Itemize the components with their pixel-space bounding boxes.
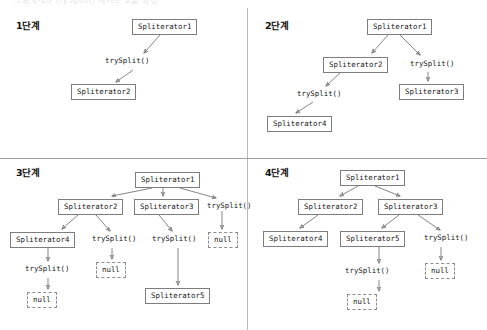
quadrant-title-step-3: 3단계 (16, 165, 40, 179)
node-null-bottom-step4: null (347, 294, 377, 310)
node-trysplit-s5-step4: trySplit() (345, 267, 390, 274)
node-spliterator2-step3: Spliterator2 (58, 199, 123, 215)
node-spliterator1-step4: Spliterator1 (340, 170, 405, 186)
node-spliterator2-step2: Spliterator2 (323, 57, 388, 73)
quadrant-title-step-4: 4단계 (265, 165, 289, 179)
node-spliterator5-step3: Spliterator5 (145, 288, 210, 304)
node-null-right-step3: null (208, 232, 238, 248)
quadrant-title-step-1: 1단계 (16, 18, 40, 32)
node-null-left-step3: null (27, 292, 57, 308)
node-trysplit-s2-right-step3: trySplit() (92, 235, 137, 242)
node-spliterator2-step4: Spliterator2 (298, 199, 363, 215)
node-spliterator1-step1: Spliterator1 (132, 19, 197, 35)
node-trysplit-right-step2: trySplit() (410, 60, 455, 67)
quadrant-divider-vertical (247, 8, 248, 330)
node-spliterator3-step4: Spliterator3 (378, 199, 443, 215)
node-null-right-step4: null (425, 263, 455, 279)
node-spliterator5-step4: Spliterator5 (340, 231, 405, 247)
diagram-edges (0, 0, 487, 330)
node-spliterator1-step3: Spliterator1 (135, 172, 200, 188)
node-trysplit-left-step2: trySplit() (297, 90, 342, 97)
node-trysplit-step1: trySplit() (105, 57, 150, 64)
clipped-figure-caption: 그림 8-20 trySplit() 메서드 호출 과정 (14, 0, 174, 6)
node-spliterator3-step2: Spliterator3 (399, 84, 464, 100)
node-trysplit-root-right-step3: trySplit() (207, 202, 252, 209)
node-spliterator1-step2: Spliterator1 (367, 19, 432, 35)
node-spliterator4-step4: Spliterator4 (263, 231, 328, 247)
node-spliterator2-step1: Spliterator2 (71, 84, 136, 100)
node-trysplit-s4-step3: trySplit() (25, 265, 70, 272)
node-spliterator4-step2: Spliterator4 (267, 116, 332, 132)
node-trysplit-s3-step4: trySplit() (424, 234, 469, 241)
edges-step-2 (296, 35, 428, 113)
node-spliterator4-step3: Spliterator4 (10, 232, 75, 248)
node-trysplit-s3-step3: trySplit() (152, 235, 197, 242)
node-spliterator3-step3: Spliterator3 (134, 199, 199, 215)
quadrant-divider-horizontal (0, 158, 487, 159)
diagram-page: 그림 8-20 trySplit() 메서드 호출 과정 1단계 Spliter… (0, 0, 487, 330)
quadrant-title-step-2: 2단계 (265, 18, 289, 32)
node-null-mid-step3: null (96, 262, 126, 278)
